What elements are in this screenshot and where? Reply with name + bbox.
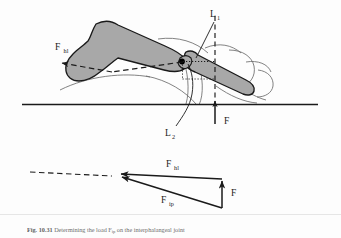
label-force-ground: F xyxy=(224,116,229,126)
label-lever-arm-2: L xyxy=(165,128,171,138)
lever-arm-1-leader xyxy=(196,22,214,58)
force-vector-triangle: F hl F F ip xyxy=(30,159,236,208)
label-vector-force-ip-subscript: ip xyxy=(169,200,174,207)
label-lever-arm-1-subscript: 1 xyxy=(217,14,220,21)
label-force-hl-subscript: hl xyxy=(64,47,69,54)
label-vector-force-ground: F xyxy=(231,188,236,198)
vector-force-hl xyxy=(121,174,222,179)
caption-body: Determining the load F xyxy=(54,226,112,233)
label-vector-force-hl: F xyxy=(166,159,171,169)
caption-body-2: on the interphalangeal joint xyxy=(115,226,184,233)
figure-caption: Fig. 10.31 Determining the load Fip on t… xyxy=(27,226,327,236)
figure-number: Fig. 10.31 xyxy=(27,226,54,233)
label-lever-arm-2-subscript: 2 xyxy=(172,133,175,140)
label-vector-force-ip: F xyxy=(161,195,166,205)
biomechanics-diagram: F hl L 1 L 2 F F hl F F ip xyxy=(0,0,341,238)
label-force-hl: F xyxy=(55,42,60,52)
label-vector-force-hl-subscript: hl xyxy=(174,164,179,171)
figure-container: F hl L 1 L 2 F F hl F F ip xyxy=(0,0,341,238)
proximal-phalanx-bone xyxy=(66,21,186,81)
caption-divider xyxy=(0,214,341,215)
lever-arm-2-leader xyxy=(176,64,193,126)
triangle-action-line xyxy=(30,172,112,176)
label-lever-arm-1: L xyxy=(210,9,216,19)
